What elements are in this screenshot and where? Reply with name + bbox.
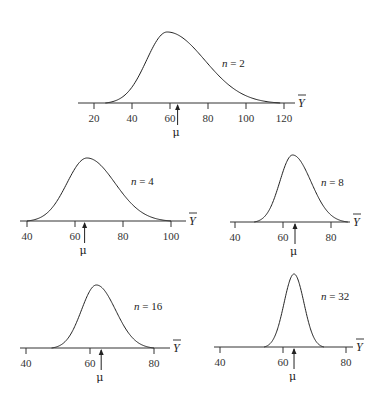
sample-size-label: n = 8: [321, 176, 344, 188]
mu-label: μ: [290, 245, 297, 258]
sample-size-label: n = 4: [131, 175, 154, 187]
tick-label: 60: [278, 356, 290, 368]
sample-size-label: n = 16: [134, 300, 163, 312]
axis-label-ybar: Y: [298, 96, 306, 110]
arrow-head-icon: [175, 104, 180, 110]
tick-label: 40: [127, 112, 139, 124]
arrow-head-icon: [293, 223, 298, 229]
tick-label: 60: [85, 357, 97, 369]
mu-label: μ: [289, 370, 296, 383]
tick-label: 20: [89, 112, 101, 124]
panel-n-16: 406080Yμn = 16: [20, 285, 181, 384]
tick-label: 40: [215, 356, 227, 368]
axis-label-ybar: Y: [353, 215, 361, 229]
tick-label: 80: [203, 112, 215, 124]
sample-size-label: n = 2: [222, 57, 245, 69]
tick-label: 80: [326, 231, 338, 243]
density-curve: [264, 274, 324, 347]
density-curve: [27, 158, 171, 221]
tick-label: 60: [70, 230, 82, 242]
tick-label: 40: [22, 230, 34, 242]
sample-size-label: n = 32: [321, 290, 349, 302]
density-curve: [254, 155, 348, 222]
panel-n-8: 406080Yμn = 8: [230, 155, 362, 258]
tick-label: 120: [276, 112, 293, 124]
tick-label: 40: [230, 231, 242, 243]
tick-label: 40: [21, 357, 33, 369]
panel-n-32: 406080Yμn = 32: [214, 274, 364, 383]
axis-label-ybar: Y: [173, 341, 181, 355]
arrow-head-icon: [82, 222, 87, 228]
tick-label: 100: [163, 230, 180, 242]
mu-label: μ: [80, 244, 87, 257]
tick-label: 80: [341, 356, 353, 368]
sampling-distribution-figure: 20406080100120Yμn = 2406080100Yμn = 4406…: [0, 0, 388, 400]
mu-label: μ: [173, 126, 180, 139]
panel-n-4: 406080100Yμn = 4: [20, 158, 197, 257]
arrow-head-icon: [99, 349, 104, 355]
density-curve: [105, 32, 280, 103]
axis-label-ybar: Y: [356, 340, 364, 354]
axis-label-ybar: Y: [189, 214, 197, 228]
tick-label: 60: [278, 231, 290, 243]
tick-label: 60: [165, 112, 177, 124]
density-curve: [52, 285, 154, 348]
panel-n-2: 20406080100120Yμn = 2: [78, 32, 306, 139]
tick-label: 100: [238, 112, 255, 124]
tick-label: 80: [118, 230, 130, 242]
mu-label: μ: [96, 371, 103, 384]
tick-label: 80: [149, 357, 161, 369]
arrow-head-icon: [292, 348, 297, 354]
